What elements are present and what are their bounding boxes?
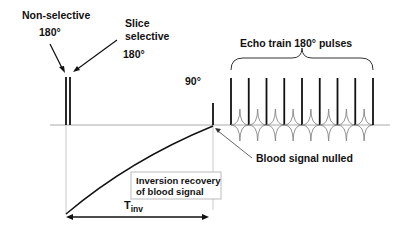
echo-train-brace: [231, 48, 373, 70]
blood-nulled-label: Blood signal nulled: [256, 152, 353, 164]
nonselective-angle: 180°: [39, 26, 61, 38]
echo-train-label: Echo train 180° pulses: [240, 37, 352, 49]
blood-nulled-arrow: [218, 131, 252, 158]
tinv-label: Tinv: [124, 199, 143, 214]
echo-train: [231, 78, 373, 141]
slice-label-2: selective: [125, 30, 170, 42]
slice-selective-arrowhead: [73, 66, 80, 72]
tinv-arrowhead-left: [66, 214, 73, 220]
pulse-sequence-diagram: Non-selective 180° Slice selective 180° …: [0, 0, 406, 233]
nonselective-arrow: [50, 44, 63, 70]
slice-angle: 180°: [123, 48, 145, 60]
recovery-label-1: Inversion recovery: [136, 175, 221, 186]
tinv-sub: inv: [131, 204, 144, 214]
tinv-arrowhead-right: [202, 214, 209, 220]
recovery-label-2: of blood signal: [136, 186, 204, 197]
ninety-label: 90°: [185, 75, 201, 87]
inversion-recovery-curve: [66, 126, 213, 214]
slice-label-1: Slice: [125, 17, 150, 29]
nonselective-arrowhead: [59, 66, 65, 73]
slice-selective-arrow: [76, 40, 117, 70]
nonselective-label: Non-selective: [22, 9, 90, 21]
